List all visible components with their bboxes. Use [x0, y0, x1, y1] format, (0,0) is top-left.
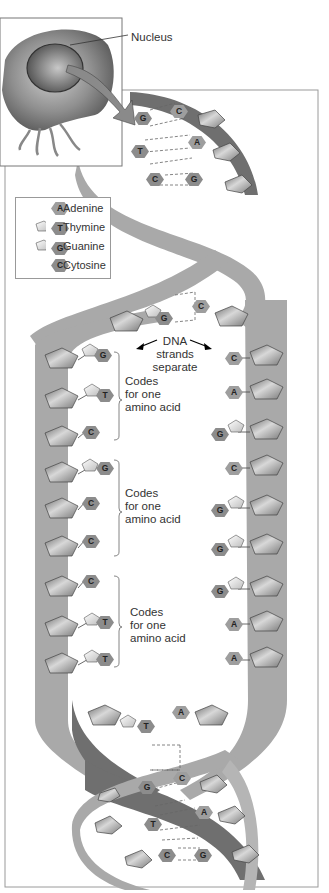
- legend-label: Guanine: [63, 240, 105, 252]
- legend-item-adenine: A Adenine: [16, 200, 110, 218]
- codon-label-2: Codes for one amino acid: [125, 487, 181, 526]
- label-line: for one: [130, 619, 186, 632]
- label-line: Codes: [125, 375, 181, 388]
- label-line: amino acid: [130, 632, 186, 645]
- label-line: amino acid: [125, 513, 181, 526]
- thymine-sugar-icon: [16, 219, 46, 237]
- legend-label: Cytosine: [63, 259, 106, 271]
- legend-item-thymine: T Thymine: [16, 219, 110, 237]
- codon-label-3: Codes for one amino acid: [130, 606, 186, 645]
- legend-item-guanine: G Guanine: [16, 238, 110, 256]
- label-line: for one: [125, 500, 181, 513]
- label-line: Codes: [130, 606, 186, 619]
- legend-item-cytosine: C Cytosine: [16, 257, 110, 275]
- diagram-artwork: [0, 0, 329, 893]
- label-line: for one: [125, 388, 181, 401]
- legend-label: Thymine: [63, 221, 105, 233]
- separate-arrows-icon: [130, 335, 230, 365]
- nucleus-label: Nucleus: [131, 31, 173, 44]
- label-line: amino acid: [125, 401, 181, 414]
- codon-label-1: Codes for one amino acid: [125, 375, 181, 414]
- guanine-sugar-icon: [16, 238, 46, 256]
- legend-label: Adenine: [63, 202, 103, 214]
- legend: A Adenine T Thymine G Guanine C Cytosine: [15, 197, 111, 279]
- codon-brackets: [112, 340, 126, 700]
- label-line: Codes: [125, 487, 181, 500]
- dna-diagram: .hex { position:absolute; width:18px; he…: [0, 0, 329, 893]
- cell-illustration: [0, 18, 135, 166]
